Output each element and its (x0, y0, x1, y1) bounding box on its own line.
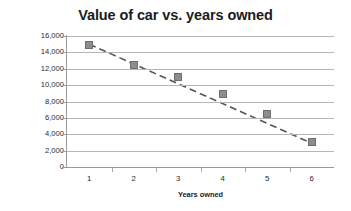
data-point-marker (263, 110, 271, 118)
gridline (67, 69, 334, 70)
y-axis-tick-label: 14,000 (26, 48, 64, 56)
x-axis-tickmark (245, 168, 246, 172)
gridline (67, 52, 334, 53)
y-axis-tick-label: 10,000 (26, 81, 64, 89)
x-axis-tick-label: 6 (290, 174, 334, 183)
y-axis-tick-label: 12,000 (26, 65, 64, 73)
gridline (67, 118, 334, 119)
data-point-marker (308, 138, 316, 146)
x-axis-tick-label: 5 (245, 174, 289, 183)
y-axis-tickmark (62, 151, 66, 152)
x-axis-tickmark (290, 168, 291, 172)
data-point-marker (85, 41, 93, 49)
x-axis-title: Years owned (67, 190, 334, 199)
chart-screenshot: Value of car vs. years owned Value of ca… (0, 0, 351, 211)
y-axis-tickmark (62, 118, 66, 119)
gridline (67, 134, 334, 135)
y-axis-tick-label: 16,000 (26, 32, 64, 40)
y-axis-tick-label: 6,000 (26, 114, 64, 122)
y-axis-tick-label: 8,000 (26, 98, 64, 106)
x-axis-tick-label: 3 (156, 174, 200, 183)
x-axis-tick-labels: 123456 (67, 174, 334, 186)
gridline (67, 102, 334, 103)
data-point-marker (219, 90, 227, 98)
y-axis-tickmark (62, 167, 66, 168)
x-axis-tickmark (201, 168, 202, 172)
y-axis-tickmark (62, 36, 66, 37)
y-axis-tickmark (62, 102, 66, 103)
y-axis-tick-label: 0 (26, 163, 64, 171)
y-axis-tickmark (62, 85, 66, 86)
data-point-marker (174, 73, 182, 81)
y-axis-tickmark (62, 52, 66, 53)
plot-area (67, 36, 334, 167)
x-axis-tickmark (112, 168, 113, 172)
y-axis-tickmark (62, 134, 66, 135)
x-axis-tick-label: 4 (201, 174, 245, 183)
gridline (67, 85, 334, 86)
gridline (67, 36, 334, 37)
x-axis-tickmark (156, 168, 157, 172)
chart-title: Value of car vs. years owned (0, 7, 351, 23)
y-axis-tick-label: 4,000 (26, 130, 64, 138)
x-axis-tick-label: 1 (67, 174, 111, 183)
x-axis-tick-label: 2 (112, 174, 156, 183)
y-axis-tickmark (62, 69, 66, 70)
data-point-marker (130, 61, 138, 69)
y-axis-tick-label: 2,000 (26, 147, 64, 155)
gridline (67, 151, 334, 152)
y-axis-tick-labels: 16,00014,00012,00010,0008,0006,0004,0002… (26, 30, 64, 173)
